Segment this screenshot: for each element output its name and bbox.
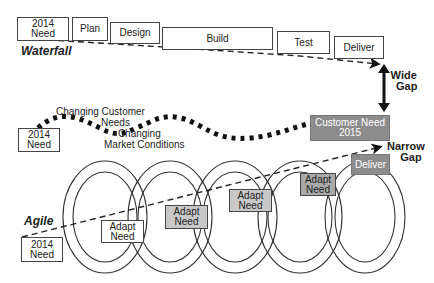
narrow-gap-label: Narrow Gap — [387, 141, 425, 163]
box-line2: Need — [239, 201, 263, 211]
box-line1: Adapt — [109, 222, 135, 232]
changing-2014-need-box: 2014 Need — [18, 128, 60, 152]
step-label: Test — [294, 38, 312, 48]
waterfall-step-test: Test — [277, 31, 330, 54]
waterfall-step-design: Design — [110, 22, 160, 44]
label-line1: Changing Customer — [56, 106, 145, 117]
step-label: Build — [206, 34, 228, 44]
waterfall-step-build: Build — [162, 27, 273, 50]
adapt-need-box-3: Adapt Need — [229, 189, 272, 212]
box-label: Deliver — [355, 160, 386, 170]
box-line1: 2014 — [31, 240, 53, 250]
step-label: Plan — [80, 24, 100, 34]
label-line2: Market Conditions — [104, 139, 185, 150]
waterfall-step-plan: Plan — [72, 17, 108, 41]
agile-deliver-box: Deliver — [351, 154, 390, 175]
adapt-need-box-2: Adapt Need — [165, 205, 208, 229]
box-line2: Need — [306, 185, 330, 195]
gap-line2: Gap — [396, 81, 417, 92]
box-line1: Adapt — [237, 191, 263, 201]
agile-2014-need-box: 2014 Need — [21, 237, 63, 262]
label-line1: Changing — [104, 128, 175, 139]
waterfall-step-deliver: Deliver — [334, 36, 384, 59]
waterfall-label: Waterfall — [21, 46, 71, 57]
wide-gap-label: Wide Gap — [390, 70, 417, 92]
box-line2: 2015 — [339, 128, 361, 138]
step-label: Deliver — [343, 43, 374, 53]
adapt-need-box-1: Adapt Need — [101, 220, 144, 243]
waterfall-step-2014-need: 2014 Need — [17, 17, 69, 41]
gap-line2: Gap — [397, 152, 425, 163]
label-line2: Needs — [86, 117, 145, 128]
box-line2: Need — [175, 217, 199, 227]
agile-vs-waterfall-diagram: 2014 Need Plan Design Build Test Deliver… — [0, 0, 434, 283]
box-line2: Need — [30, 250, 54, 260]
step-line2: Need — [31, 29, 55, 39]
box-line2: Need — [111, 232, 135, 242]
changing-customer-needs-label: Changing Customer Needs — [56, 106, 145, 128]
box-line1: Adapt — [305, 175, 331, 185]
step-label: Design — [119, 28, 150, 38]
box-line2: Need — [27, 140, 51, 150]
changing-market-conditions-label: Changing Market Conditions — [104, 128, 185, 150]
customer-need-2015-box: Customer Need 2015 — [310, 115, 390, 141]
agile-label: Agile — [24, 216, 53, 227]
adapt-need-box-4: Adapt Need — [300, 173, 336, 196]
agile-iteration-loops — [63, 161, 405, 273]
